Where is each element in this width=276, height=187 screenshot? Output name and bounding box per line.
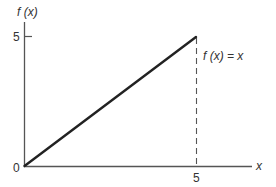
x-axis-label: x [255,159,263,173]
curve-annotation: f (x) = x [203,49,244,63]
origin-label: 0 [13,161,20,175]
series-line-fx [25,37,197,166]
y-tick-label-5: 5 [13,30,20,44]
y-axis-label: f (x) [17,5,38,19]
chart-figure: f (x) 5 0 5 x f (x) = x [0,0,276,187]
x-tick-label-5: 5 [193,171,200,185]
